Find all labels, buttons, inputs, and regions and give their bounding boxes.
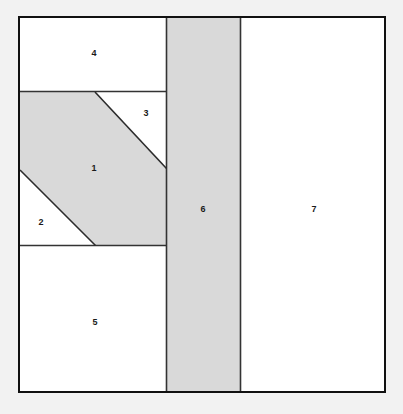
geometric-region-diagram: 1 2 3 4 5 6 7 — [0, 0, 403, 414]
region-6-label: 6 — [200, 204, 205, 214]
region-7-label: 7 — [311, 204, 316, 214]
region-4-label: 4 — [91, 48, 96, 58]
region-2-label: 2 — [38, 217, 43, 227]
region-3-label: 3 — [143, 108, 148, 118]
diagram-page: 1 2 3 4 5 6 7 — [0, 0, 403, 414]
region-1-label: 1 — [91, 163, 96, 173]
region-5-label: 5 — [92, 317, 97, 327]
